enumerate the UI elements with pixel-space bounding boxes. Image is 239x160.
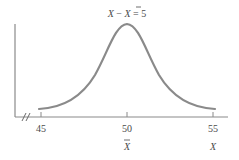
tick-label-45: 45 [36,123,46,134]
bell-curve [39,24,215,109]
chart-title: X − X = 5 [107,8,147,19]
x-axis-label: X [209,141,217,152]
tick-label-55: 55 [208,123,218,134]
mean-label: X [123,141,131,152]
tick-label-50: 50 [122,123,132,134]
normal-curve-chart: X − X = 5 45 50 55 X X [0,0,239,160]
